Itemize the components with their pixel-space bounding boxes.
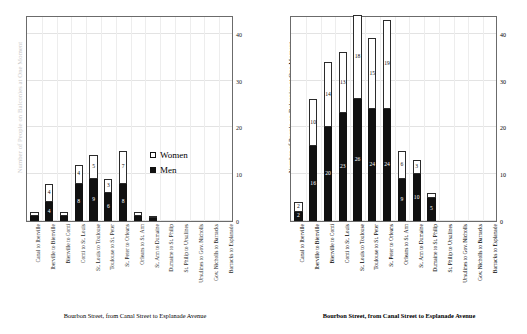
bar-value-label-women: 18 xyxy=(354,54,360,60)
y-axis-ticks-right: 010203040 xyxy=(500,16,524,222)
bar-value-label-men: 23 xyxy=(340,164,346,170)
stacked-bar: 59 xyxy=(89,155,97,221)
y-axis-tick-label: 10 xyxy=(236,172,242,178)
x-axis-labels-right: Canal to IbervilleIberville to Bienville… xyxy=(290,224,497,306)
gridline-horizontal xyxy=(291,173,496,174)
bar-segment-women: 2 xyxy=(294,202,302,211)
gridline-vertical xyxy=(204,17,205,221)
bar-segment-men: 26 xyxy=(353,99,361,221)
x-axis-category-label: Iberville to Bienville xyxy=(50,224,56,270)
gridline-horizontal xyxy=(291,220,496,221)
bar-value-label-men: 24 xyxy=(384,162,390,168)
bar-value-label-women: 7 xyxy=(120,164,126,170)
bar-value-label-men: 20 xyxy=(325,171,331,177)
gridline-vertical xyxy=(483,17,484,221)
stacked-bar: 01 xyxy=(149,216,157,221)
bar-segment-men: 2 xyxy=(294,212,302,221)
gridline-horizontal xyxy=(27,126,232,127)
gridline-vertical xyxy=(424,17,425,221)
bar-segment-men: 24 xyxy=(383,109,391,221)
stacked-bar: 1826 xyxy=(353,15,361,221)
x-axis-category-label: Ursulines to Gov. Nicholls xyxy=(462,224,468,283)
stacked-bar: 11 xyxy=(60,212,68,221)
figure-two-panel-bar-charts: Number of People on Balconies at One Mom… xyxy=(0,0,527,334)
x-axis-category-label: St. Philip to Ursulines xyxy=(183,224,189,273)
y-axis-tick-label: 40 xyxy=(236,32,242,38)
bars-container-right: 221016142013231826152419246931015 xyxy=(291,17,496,221)
bar-value-label-men: 6 xyxy=(105,204,111,210)
x-axis-category-label: St. Philip to Ursulines xyxy=(447,224,453,273)
gridline-vertical xyxy=(86,17,87,221)
bar-segment-men: 9 xyxy=(398,179,406,221)
bar-segment-men: 24 xyxy=(368,109,376,221)
y-axis-title-left: Number of People on Balconies at One Mom… xyxy=(16,3,23,213)
y-axis-tick-label: 0 xyxy=(236,219,239,225)
bar-value-label-women: 4 xyxy=(76,171,82,177)
gridline-vertical xyxy=(42,17,43,221)
gridline-horizontal xyxy=(291,33,496,34)
gridline-vertical xyxy=(116,17,117,221)
bar-value-label-women: 19 xyxy=(384,61,390,67)
bar-segment-men: 20 xyxy=(324,127,332,221)
bar-value-label-men: 8 xyxy=(76,199,82,205)
bar-segment-women: 6 xyxy=(398,151,406,179)
bar-segment-women: 4 xyxy=(45,184,53,203)
stacked-bar: 11 xyxy=(134,212,142,221)
x-axis-category-label: Bienville to Conti xyxy=(65,224,71,263)
x-axis-category-label: Conti to St. Louis xyxy=(344,224,350,263)
y-axis-tick-label: 30 xyxy=(236,79,242,85)
bar-value-label-men: 16 xyxy=(310,181,316,187)
bar-value-label-women: 14 xyxy=(325,92,331,98)
bar-value-label-women: 4 xyxy=(46,190,52,196)
gridline-vertical xyxy=(101,17,102,221)
chart-panel-right: Number of People on Balconies at One Mom… xyxy=(264,0,527,334)
bar-segment-men: 1 xyxy=(30,216,38,221)
stacked-bar: 15 xyxy=(427,193,435,221)
x-axis-category-label: Gov. Nicholls to Barracks xyxy=(213,224,219,281)
gridline-vertical xyxy=(175,17,176,221)
stacked-bar: 1420 xyxy=(324,62,332,221)
bar-value-label-women: 15 xyxy=(369,71,375,77)
bar-value-label-women: 2 xyxy=(295,204,301,210)
bar-segment-women: 7 xyxy=(119,151,127,184)
x-axis-category-label: St. Louis to Toulouse xyxy=(359,224,365,271)
gridline-vertical xyxy=(380,17,381,221)
bar-value-label-women: 5 xyxy=(90,164,96,170)
gridline-vertical xyxy=(350,17,351,221)
x-axis-category-label: St. Ann to Dumaine xyxy=(418,224,424,268)
gridline-horizontal xyxy=(27,33,232,34)
stacked-bar: 1924 xyxy=(383,20,391,221)
x-axis-category-label: St. Peter to Orleans xyxy=(124,224,130,267)
y-axis-ticks-left: 010203040 xyxy=(236,16,260,222)
x-axis-category-label: Orleans to St. Ann xyxy=(139,224,145,265)
legend-label-men: Men xyxy=(160,165,177,175)
bar-segment-women: 3 xyxy=(413,160,421,174)
x-axis-category-label: Barracks to Esplanade xyxy=(492,224,498,273)
x-axis-category-label: Gov. Nicholls to Barracks xyxy=(477,224,483,281)
bar-segment-women: 14 xyxy=(324,62,332,128)
gridline-vertical xyxy=(190,17,191,221)
stacked-bar: 78 xyxy=(119,151,127,221)
gridline-vertical xyxy=(409,17,410,221)
x-axis-category-label: Iberville to Bienville xyxy=(314,224,320,270)
stacked-bar: 310 xyxy=(413,160,421,221)
gridline-vertical xyxy=(321,17,322,221)
bar-segment-men: 1 xyxy=(134,216,142,221)
bar-segment-men: 8 xyxy=(119,184,127,221)
x-axis-category-label: Ursulines to Gov. Nicholls xyxy=(198,224,204,283)
gridline-vertical xyxy=(131,17,132,221)
bar-value-label-men: 4 xyxy=(46,209,52,215)
x-axis-category-label: Bienville to Conti xyxy=(329,224,335,263)
bar-value-label-men: 26 xyxy=(354,157,360,163)
gridline-vertical xyxy=(57,17,58,221)
bar-segment-men: 1 xyxy=(60,216,68,221)
bar-segment-men: 6 xyxy=(104,193,112,221)
gridline-horizontal xyxy=(27,80,232,81)
legend-item-men: Men xyxy=(150,165,188,175)
gridline-vertical xyxy=(395,17,396,221)
bar-segment-men: 23 xyxy=(339,113,347,221)
bar-segment-women: 15 xyxy=(368,38,376,108)
legend-swatch-men-icon xyxy=(150,167,156,173)
x-axis-category-label: Barracks to Esplanade xyxy=(228,224,234,273)
gridline-horizontal xyxy=(291,80,496,81)
